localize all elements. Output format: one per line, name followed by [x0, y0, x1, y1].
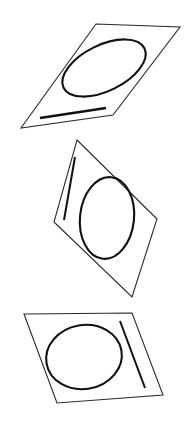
figure-canvas	[0, 0, 194, 429]
line-drawing-figure	[0, 0, 194, 429]
background	[0, 0, 194, 429]
